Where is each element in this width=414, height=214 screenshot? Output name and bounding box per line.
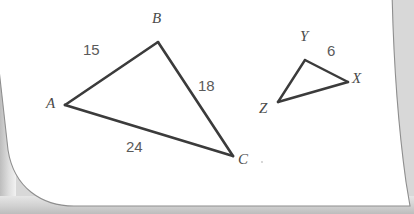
geometry-figure — [0, 0, 414, 214]
scan-speck — [261, 161, 263, 163]
paper-page-inner-highlight — [0, 0, 404, 200]
side-length-yx: 6 — [327, 43, 335, 58]
vertex-label-a: A — [46, 96, 55, 111]
vertex-label-b: B — [152, 11, 161, 26]
vertex-label-x: X — [352, 71, 361, 86]
vertex-label-c: C — [238, 152, 248, 167]
side-length-bc: 18 — [198, 78, 215, 93]
vertex-label-y: Y — [300, 29, 308, 44]
diagram-canvas: A B C Y X Z 15 18 24 6 — [0, 0, 414, 214]
vertex-label-z: Z — [259, 101, 267, 116]
side-length-ac: 24 — [126, 139, 143, 154]
side-length-ab: 15 — [83, 42, 100, 57]
